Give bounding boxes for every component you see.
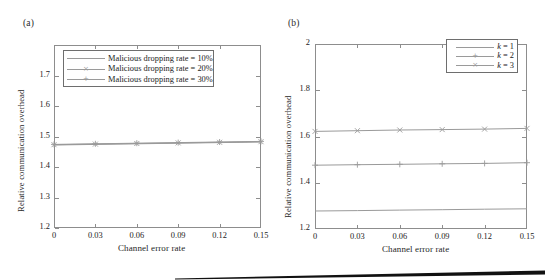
- legend-item-b-1: + k = 2: [450, 51, 514, 60]
- legend-x-marker-icon: ×: [456, 60, 494, 70]
- chart-panel-b: (b) Relative communication overhead 1.2 …: [272, 0, 544, 258]
- legend-label-b-2: k = 3: [494, 61, 514, 70]
- series-line-b-k1: [315, 209, 527, 211]
- legend-item-b-2: × k = 3: [450, 61, 514, 70]
- legend-label-a-1: Malicious dropping rate = 20%: [105, 64, 213, 73]
- legend-line-sample-icon: [67, 53, 105, 63]
- legend-plus-marker-icon: +: [67, 74, 105, 84]
- x-axis-title-b: Channel error rate: [382, 244, 449, 254]
- legend-item-a-0: Malicious dropping rate = 10%: [67, 53, 210, 64]
- series-line-b-k2: [312, 160, 530, 169]
- x-axis-title-a: Channel error rate: [118, 243, 185, 253]
- legend-label-a-2: Malicious dropping rate = 30%: [105, 75, 213, 84]
- legend-item-a-2: + Malicious dropping rate = 30%: [67, 74, 210, 85]
- legend-label-b-0: k = 1: [494, 42, 514, 51]
- series-plot-a: [0, 0, 272, 258]
- series-line-b-k3: [313, 126, 530, 134]
- footer-divider-rule: [0, 258, 545, 280]
- figure-panels: (a) Relative communication overhead 1.2 …: [0, 0, 545, 258]
- legend-x-marker-icon: ×: [67, 64, 105, 74]
- legend-label-b-1: k = 2: [494, 51, 514, 60]
- legend-label-a-0: Malicious dropping rate = 10%: [105, 54, 213, 63]
- legend-a: Malicious dropping rate = 10% × Maliciou…: [63, 50, 214, 87]
- legend-b: k = 1 + k = 2 × k = 3: [446, 39, 518, 73]
- chart-panel-a: (a) Relative communication overhead 1.2 …: [0, 0, 272, 258]
- legend-item-b-0: k = 1: [450, 42, 514, 51]
- legend-item-a-1: × Malicious dropping rate = 20%: [67, 64, 210, 75]
